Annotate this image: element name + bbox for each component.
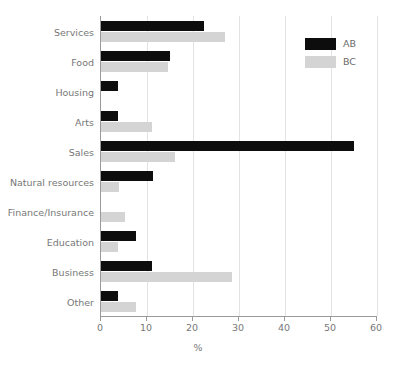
x-tick-label: 0 (97, 322, 103, 333)
bar-bc (101, 62, 168, 72)
x-tick-label: 20 (186, 322, 198, 333)
bar-bc (101, 272, 232, 282)
bar-bc (101, 302, 136, 312)
x-tick-mark (330, 317, 331, 321)
x-axis-title: % (0, 342, 396, 353)
legend-entry: AB (305, 37, 387, 52)
bar-group (101, 111, 377, 133)
bar-group (101, 291, 377, 313)
x-tick-mark (146, 317, 147, 321)
bar-ab (101, 51, 170, 61)
x-axis-ticks: 0102030405060 (100, 317, 377, 337)
bar-group (101, 171, 377, 193)
bar-ab (101, 21, 204, 31)
bar-bc (101, 242, 118, 252)
x-tick-mark (238, 317, 239, 321)
x-tick-label: 10 (140, 322, 152, 333)
bar-ab (101, 81, 118, 91)
bar-ab (101, 111, 118, 121)
category-label: Food (0, 56, 94, 67)
bar-group (101, 81, 377, 103)
legend-swatch (305, 38, 336, 50)
category-label: Education (0, 236, 94, 247)
x-tick-label: 30 (232, 322, 244, 333)
category-label: Natural resources (0, 176, 94, 187)
category-label: Housing (0, 86, 94, 97)
bar-bc (101, 32, 225, 42)
bar-ab (101, 291, 118, 301)
bar-bc (101, 182, 119, 192)
bar-chart: ServicesFoodHousingArtsSalesNatural reso… (0, 0, 396, 372)
x-tick-label: 40 (278, 322, 290, 333)
legend-label: AB (343, 38, 356, 50)
category-axis-labels: ServicesFoodHousingArtsSalesNatural reso… (0, 16, 94, 316)
bar-group (101, 231, 377, 253)
bar-bc (101, 152, 175, 162)
category-label: Other (0, 296, 94, 307)
bar-group (101, 261, 377, 283)
bar-bc (101, 212, 125, 222)
bar-ab (101, 171, 153, 181)
bar-group (101, 201, 377, 223)
category-label: Business (0, 266, 94, 277)
bar-bc (101, 122, 152, 132)
legend-swatch (305, 56, 336, 68)
bar-ab (101, 261, 152, 271)
bar-ab (101, 141, 354, 151)
bar-ab (101, 231, 136, 241)
bar-group (101, 141, 377, 163)
x-tick-mark (376, 317, 377, 321)
legend-label: BC (343, 56, 356, 68)
x-tick-label: 60 (370, 322, 382, 333)
category-label: Sales (0, 146, 94, 157)
x-tick-mark (192, 317, 193, 321)
chart-legend: ABBC (305, 37, 387, 73)
legend-entry: BC (305, 55, 387, 70)
category-label: Services (0, 26, 94, 37)
category-label: Arts (0, 116, 94, 127)
x-tick-label: 50 (324, 322, 336, 333)
x-tick-mark (284, 317, 285, 321)
x-tick-mark (100, 317, 101, 321)
category-label: Finance/Insurance (0, 206, 94, 217)
